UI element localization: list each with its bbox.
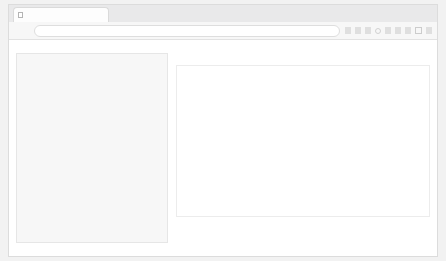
- browser-window: [8, 4, 438, 257]
- profile-icon[interactable]: [375, 28, 381, 34]
- browser-toolbar: [9, 22, 437, 40]
- screen: [0, 0, 446, 261]
- browser-tabstrip: [9, 5, 437, 22]
- page-title: [9, 40, 437, 53]
- main-panel: [176, 53, 430, 243]
- overflow-menu-icon[interactable]: [426, 27, 432, 34]
- plot-svg: [177, 66, 430, 216]
- page-icon: [18, 12, 23, 18]
- input-sidebar: [16, 53, 168, 243]
- extension-icon-6[interactable]: [405, 27, 411, 34]
- address-bar[interactable]: [34, 25, 340, 37]
- extension-icon-3[interactable]: [365, 27, 371, 34]
- browser-extension-icons: [345, 27, 432, 34]
- extension-icon-1[interactable]: [345, 27, 351, 34]
- chart-title: [176, 58, 430, 65]
- extension-icon-5[interactable]: [395, 27, 401, 34]
- apps-grid-icon[interactable]: [415, 27, 422, 34]
- web-page: [9, 40, 437, 257]
- extension-icon-4[interactable]: [385, 27, 391, 34]
- confidence-interval-plot: [176, 65, 430, 217]
- browser-tab[interactable]: [13, 7, 109, 22]
- extension-icon-2[interactable]: [355, 27, 361, 34]
